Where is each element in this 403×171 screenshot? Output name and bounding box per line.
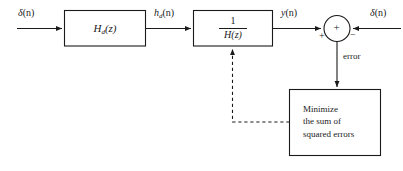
desired-system-block-label: Hd(z) (65, 22, 146, 36)
error-signal-label: error (343, 52, 361, 61)
block-diagram: δ(n) Hd(z) hd(n) 1 H(z) y(n) + + − δ(n) … (0, 0, 403, 171)
summing-junction-plus-sign: + (319, 31, 325, 41)
fraction-numerator: 1 (194, 16, 273, 27)
hd-arg: (z) (105, 22, 117, 34)
summing-junction-center-sign: + (334, 22, 340, 33)
minimize-line-2: the sum of (303, 115, 354, 127)
y-arg: (n) (285, 7, 297, 18)
adaptation-feedback-path (233, 49, 290, 122)
hd-out-arg: (n) (163, 7, 175, 18)
reference-signal-label: δ(n) (370, 8, 386, 18)
y-signal-label: y(n) (281, 8, 297, 18)
minimize-line-1: Minimize (303, 103, 354, 115)
minimize-block-label: Minimize the sum of squared errors (303, 103, 354, 140)
fraction-denominator: H(z) (194, 30, 273, 41)
input-delta-arg: (n) (23, 7, 35, 18)
minimize-line-3: squared errors (303, 128, 354, 140)
reference-delta-arg: (n) (375, 7, 387, 18)
summing-junction-minus-sign: − (350, 30, 356, 40)
inverse-filter-block-label: 1 H(z) (194, 16, 273, 40)
hd-signal-label: hd(n) (154, 8, 174, 20)
input-signal-label: δ(n) (18, 8, 34, 18)
